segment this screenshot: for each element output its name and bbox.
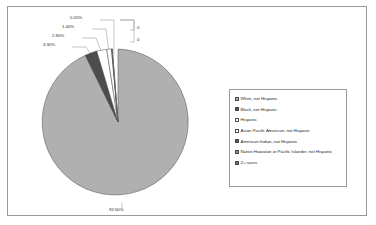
legend-label: Asian Pacific American, not Hispanic xyxy=(241,128,310,134)
leader-line-native-hawaiian xyxy=(120,20,134,30)
legend-item-white[interactable]: White, not Hispanic xyxy=(235,96,342,102)
leader-line-two-plus xyxy=(120,20,134,42)
legend-item-hispanic[interactable]: Hispanic xyxy=(235,117,342,123)
legend-swatch-icon xyxy=(235,150,239,154)
slice-label-black: 3.30% xyxy=(43,43,55,47)
slice-label-hispanic: 2.90% xyxy=(52,34,64,38)
legend: White, not Hispanic Black, not Hispanic … xyxy=(229,89,347,187)
legend-swatch-icon xyxy=(235,139,239,143)
legend-swatch-icon xyxy=(235,107,239,111)
slice-label-american-indian: 0.20% xyxy=(70,16,82,20)
legend-swatch-icon xyxy=(235,161,239,165)
legend-item-black[interactable]: Black, not Hispanic xyxy=(235,107,342,113)
legend-item-asian[interactable]: Asian Pacific American, not Hispanic xyxy=(235,128,342,134)
pie-chart-plot-area: 0.20% 1.40% 2.90% 3.30% 0 0 92.60% White… xyxy=(8,7,368,217)
slice-label-white: 92.60% xyxy=(109,208,124,212)
legend-label: American Indian, not Hispanic xyxy=(241,139,298,145)
legend-label: 2+ races xyxy=(241,160,258,166)
legend-item-american-indian[interactable]: American Indian, not Hispanic xyxy=(235,139,342,145)
legend-label: Hispanic xyxy=(241,117,257,123)
legend-label: Native Hawaiian or Pacific Islander, not… xyxy=(241,149,333,155)
chart-frame: 0.20% 1.40% 2.90% 3.30% 0 0 92.60% White… xyxy=(7,6,367,216)
legend-label: Black, not Hispanic xyxy=(241,107,277,113)
legend-swatch-icon xyxy=(235,97,239,101)
slice-label-two-plus: 0 xyxy=(137,38,139,42)
slice-label-asian: 1.40% xyxy=(62,25,74,29)
slice-label-native-hawaiian: 0 xyxy=(137,26,139,30)
legend-swatch-icon xyxy=(235,129,239,133)
legend-item-two-plus[interactable]: 2+ races xyxy=(235,160,342,166)
legend-item-native-hawaiian[interactable]: Native Hawaiian or Pacific Islander, not… xyxy=(235,149,342,155)
pie-slice-white[interactable] xyxy=(42,49,188,195)
legend-label: White, not Hispanic xyxy=(241,96,278,102)
legend-swatch-icon xyxy=(235,118,239,122)
pie-slices xyxy=(42,49,188,195)
